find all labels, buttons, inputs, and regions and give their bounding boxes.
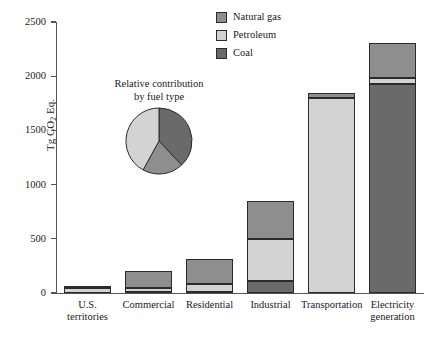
pie-inset-graphic bbox=[125, 107, 193, 175]
chart-legend: Natural gasPetroleumCoal bbox=[216, 9, 281, 63]
y-tick-label: 500 bbox=[0, 233, 46, 244]
x-axis-label-line1: Residential bbox=[179, 299, 240, 311]
legend-swatch-icon bbox=[216, 48, 227, 59]
x-axis-label-u-s: U.S.territories bbox=[57, 299, 118, 322]
x-axis-label-line1: Transportation bbox=[301, 299, 362, 311]
pie-inset-title-line2: by fuel type bbox=[93, 91, 225, 104]
y-tick-label: 0 bbox=[0, 287, 46, 298]
legend-item-coal: Coal bbox=[216, 45, 281, 61]
y-tick-label: 2000 bbox=[0, 70, 46, 81]
y-tick-mark bbox=[51, 130, 56, 131]
y-tick-mark bbox=[51, 292, 56, 293]
y-tick-mark bbox=[51, 76, 56, 77]
legend-item-natural-gas: Natural gas bbox=[216, 9, 281, 25]
x-axis-label-line1: Industrial bbox=[240, 299, 301, 311]
x-axis-label-transportation: Transportation bbox=[301, 299, 362, 311]
bar-segment-natural-gas bbox=[308, 93, 355, 98]
bar-segment-natural-gas bbox=[369, 43, 416, 79]
y-tick-label: 1000 bbox=[0, 179, 46, 190]
bar-segment-petroleum bbox=[247, 239, 294, 281]
x-axis-label-line2: generation bbox=[362, 311, 423, 323]
bar-segment-natural-gas bbox=[247, 201, 294, 239]
legend-swatch-icon bbox=[216, 30, 227, 41]
legend-label: Natural gas bbox=[233, 12, 281, 23]
legend-swatch-icon bbox=[216, 12, 227, 23]
x-axis-label-line2: territories bbox=[57, 311, 118, 323]
legend-label: Petroleum bbox=[233, 30, 276, 41]
bar-segment-natural-gas bbox=[125, 271, 172, 288]
x-axis-label-residential: Residential bbox=[179, 299, 240, 311]
bar-segment-petroleum bbox=[308, 98, 355, 293]
legend-item-petroleum: Petroleum bbox=[216, 27, 281, 43]
y-axis-title: Tg CO2 Eq. bbox=[44, 65, 58, 185]
y-tick-label: 2500 bbox=[0, 16, 46, 27]
legend-label: Coal bbox=[233, 48, 253, 59]
x-axis-label-line1: Electricity bbox=[362, 299, 423, 311]
y-tick-mark bbox=[51, 238, 56, 239]
bar-segment-petroleum bbox=[369, 78, 416, 84]
x-axis-label-line1: Commercial bbox=[118, 299, 179, 311]
y-axis-title-suffix: Eq. bbox=[44, 99, 56, 117]
pie-inset-title-line1: Relative contribution bbox=[93, 78, 225, 91]
bar-segment-natural-gas bbox=[186, 259, 233, 284]
x-axis-label-industrial: Industrial bbox=[240, 299, 301, 311]
x-axis-label-electricity: Electricitygeneration bbox=[362, 299, 423, 322]
bar-segment-coal bbox=[369, 84, 416, 293]
bar-transportation bbox=[308, 22, 355, 293]
bar-electricity-generation bbox=[369, 22, 416, 293]
stacked-bar-chart: Tg CO2 Eq. 05001000150020002500 U.S.terr… bbox=[0, 0, 448, 343]
bar-segment-petroleum bbox=[125, 288, 172, 292]
y-tick-mark bbox=[51, 184, 56, 185]
bar-segment-petroleum bbox=[64, 288, 111, 293]
bar-segment-coal bbox=[247, 281, 294, 293]
x-axis-label-commercial: Commercial bbox=[118, 299, 179, 311]
x-axis-line bbox=[56, 293, 424, 294]
bar-segment-petroleum bbox=[186, 284, 233, 293]
pie-chart-inset: Relative contribution by fuel type bbox=[93, 78, 225, 194]
y-tick-mark bbox=[51, 21, 56, 22]
pie-svg bbox=[125, 107, 193, 175]
y-tick-label: 1500 bbox=[0, 124, 46, 135]
x-axis-label-line1: U.S. bbox=[57, 299, 118, 311]
bar-segment-natural-gas bbox=[64, 286, 111, 288]
pie-inset-title: Relative contribution by fuel type bbox=[93, 78, 225, 103]
